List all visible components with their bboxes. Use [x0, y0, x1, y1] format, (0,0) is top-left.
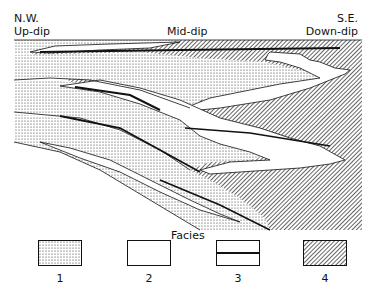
legend-number-2: 2: [127, 272, 171, 285]
legend-swatch-blank: [127, 240, 171, 266]
legend-swatch-stippled: [38, 240, 82, 266]
up-dip-label: Up-dip: [14, 26, 50, 38]
southeast-label: S.E.: [337, 13, 358, 25]
legend-title: Facies: [171, 230, 205, 242]
down-dip-label: Down-dip: [306, 26, 358, 38]
legend-swatch-hatched: [303, 240, 347, 266]
mid-dip-label: Mid-dip: [167, 26, 208, 38]
legend-number-3: 3: [216, 272, 260, 285]
legend-number-1: 1: [38, 272, 82, 285]
northwest-label: N.W.: [14, 13, 39, 25]
legend-number-4: 4: [303, 272, 347, 285]
legend-swatch-bold-line: [216, 240, 260, 266]
